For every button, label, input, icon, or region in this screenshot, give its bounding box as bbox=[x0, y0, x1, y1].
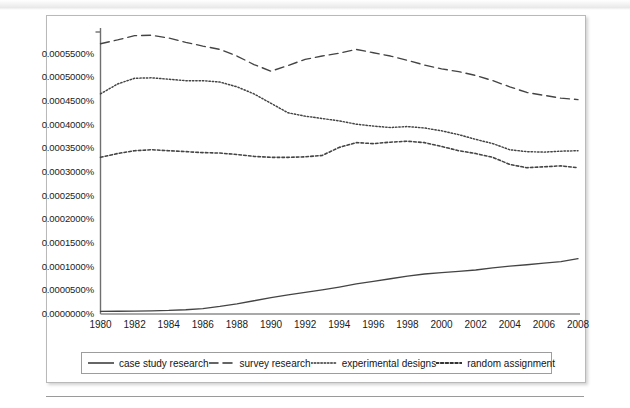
y-tick-label: 0.0005000% bbox=[20, 71, 94, 82]
legend-label: survey research bbox=[240, 358, 311, 369]
legend-item-experimental-designs: experimental designs bbox=[311, 358, 437, 369]
y-tick-label: 0.0005500% bbox=[20, 48, 94, 59]
legend-item-random-assignment: random assignment bbox=[436, 358, 555, 369]
footer-divider bbox=[46, 396, 584, 397]
y-tick-label: 0.0004500% bbox=[20, 95, 94, 106]
y-tick-label: 0.0002000% bbox=[20, 213, 94, 224]
y-tick-label: 0.0000000% bbox=[20, 308, 94, 319]
chart-legend: case study researchsurvey researchexperi… bbox=[81, 352, 552, 374]
legend-item-survey-research: survey research bbox=[209, 358, 311, 369]
page-top-band bbox=[0, 0, 630, 10]
legend-swatch-icon bbox=[436, 359, 462, 367]
y-tick-label: 0.0003000% bbox=[20, 166, 94, 177]
y-tick-label: 0.0001500% bbox=[20, 237, 94, 248]
legend-label: experimental designs bbox=[342, 358, 437, 369]
legend-item-case-study-research: case study research bbox=[88, 358, 209, 369]
legend-label: random assignment bbox=[467, 358, 555, 369]
y-tick-label: 0.0001000% bbox=[20, 261, 94, 272]
legend-label: case study research bbox=[119, 358, 209, 369]
legend-swatch-icon bbox=[311, 359, 337, 367]
x-tick-label: 2008 bbox=[558, 319, 598, 330]
legend-swatch-icon bbox=[88, 359, 114, 367]
y-tick-label: 0.0003500% bbox=[20, 142, 94, 153]
y-tick-label: 0.0000500% bbox=[20, 284, 94, 295]
legend-swatch-icon bbox=[209, 359, 235, 367]
y-tick-label: 0.0004000% bbox=[20, 119, 94, 130]
y-tick-label: 0.0002500% bbox=[20, 190, 94, 201]
